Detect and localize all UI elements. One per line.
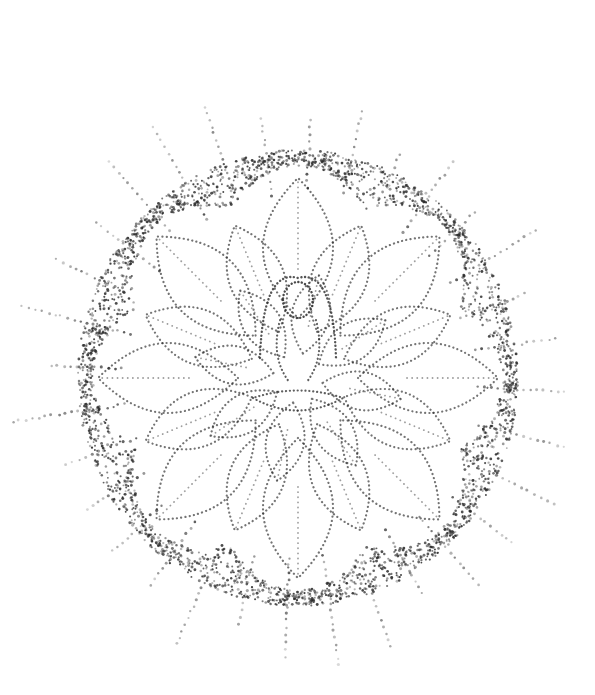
lotus-petals xyxy=(98,178,498,578)
radiating-rays xyxy=(12,106,565,666)
lotus-mandala-illustration xyxy=(0,0,595,695)
